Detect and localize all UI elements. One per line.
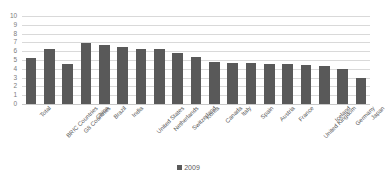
x-tick-label: Canada	[224, 105, 243, 124]
bar[interactable]	[246, 63, 257, 104]
bar[interactable]	[209, 62, 220, 104]
x-tick-label: United Kingdom	[322, 105, 357, 140]
y-axis: 012345678910	[0, 16, 20, 104]
x-tick-label: India	[131, 105, 145, 119]
legend-swatch-2009	[177, 165, 182, 170]
bar[interactable]	[99, 45, 110, 104]
bar[interactable]	[172, 53, 183, 104]
bar[interactable]	[282, 64, 293, 104]
bar[interactable]	[154, 49, 165, 104]
bars-layer	[22, 16, 370, 104]
x-tick-label: Total	[39, 105, 52, 118]
bar[interactable]	[191, 57, 202, 104]
bar[interactable]	[301, 65, 312, 104]
bar[interactable]	[44, 49, 55, 104]
y-tick-label-6: 6	[13, 48, 17, 55]
x-tick-label: Austria	[279, 105, 297, 123]
legend-label-2009: 2009	[184, 164, 200, 171]
bar[interactable]	[81, 43, 92, 104]
x-tick-label: France	[297, 105, 315, 123]
y-tick-label-7: 7	[13, 39, 17, 46]
bar[interactable]	[227, 63, 238, 104]
bar[interactable]	[62, 64, 73, 104]
bar[interactable]	[319, 66, 330, 104]
y-tick-label-9: 9	[13, 22, 17, 29]
y-tick-label-4: 4	[13, 66, 17, 73]
bar[interactable]	[264, 64, 275, 104]
y-tick-label-2: 2	[13, 83, 17, 90]
y-tick-label-10: 10	[10, 13, 17, 20]
bar[interactable]	[136, 49, 147, 104]
y-tick-label-0: 0	[13, 101, 17, 108]
bar[interactable]	[337, 69, 348, 104]
x-tick-label: Korea	[205, 105, 221, 121]
bar[interactable]	[26, 58, 37, 104]
y-tick-label-3: 3	[13, 74, 17, 81]
y-tick-label-8: 8	[13, 30, 17, 37]
chart-legend: 2009	[0, 164, 377, 171]
bar[interactable]	[117, 47, 128, 104]
x-tick-label: Brazil	[113, 105, 128, 120]
bar[interactable]	[356, 78, 367, 104]
y-tick-label-1: 1	[13, 92, 17, 99]
x-tick-label: Spain	[259, 105, 274, 120]
y-tick-label-5: 5	[13, 57, 17, 64]
x-axis: TotalBRIC CountriesG8 CountriesChinaBraz…	[22, 105, 370, 160]
